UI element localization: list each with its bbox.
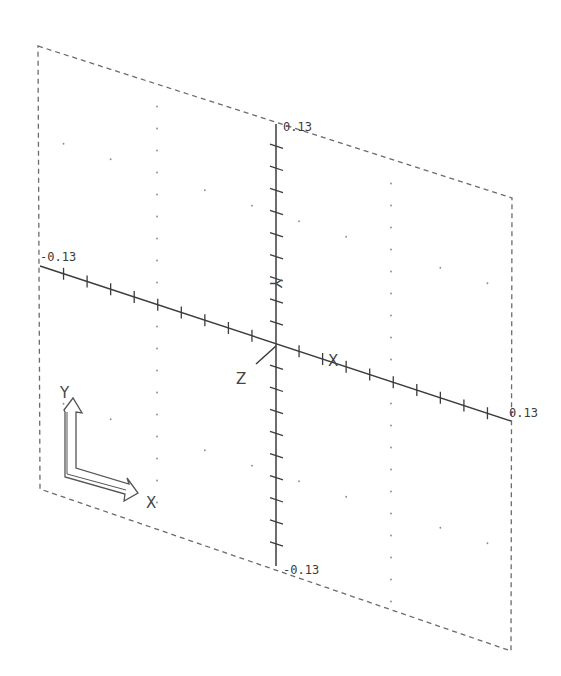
grid-dot bbox=[156, 106, 158, 108]
grid-dot bbox=[390, 535, 392, 537]
grid-dot bbox=[204, 449, 206, 451]
grid-dot bbox=[156, 128, 158, 130]
y-axis-min-label: -0.13 bbox=[283, 563, 319, 577]
grid-dot bbox=[156, 238, 158, 240]
grid-dot bbox=[390, 447, 392, 449]
grid-dot bbox=[204, 189, 206, 191]
grid-dot bbox=[390, 293, 392, 295]
x-axis-max-label: 0.13 bbox=[509, 406, 538, 420]
grid-dot bbox=[251, 465, 253, 467]
grid-dot bbox=[251, 205, 253, 207]
grid-dot bbox=[390, 425, 392, 427]
z-axis-line bbox=[256, 346, 276, 364]
grid-dot bbox=[156, 150, 158, 152]
grid-dot bbox=[156, 458, 158, 460]
grid-dot bbox=[345, 236, 347, 238]
grid-dot bbox=[63, 403, 65, 405]
grid-dot bbox=[156, 172, 158, 174]
grid-dot bbox=[390, 359, 392, 361]
grid-dot bbox=[390, 337, 392, 339]
ucs-icon: Y X bbox=[59, 384, 156, 512]
grid-dot bbox=[156, 216, 158, 218]
plane-boundary bbox=[38, 46, 512, 651]
grid-dot bbox=[156, 194, 158, 196]
y-axis-max-label: 0.13 bbox=[283, 120, 312, 134]
grid-dot bbox=[390, 491, 392, 493]
grid-dot bbox=[345, 496, 347, 498]
grid-dot bbox=[390, 579, 392, 581]
grid-dot bbox=[390, 557, 392, 559]
grid-dot bbox=[156, 282, 158, 284]
grid-dot bbox=[110, 418, 112, 420]
grid-dot bbox=[390, 513, 392, 515]
y-axis-label: Y bbox=[266, 278, 284, 289]
x-axis-min-label: -0.13 bbox=[40, 250, 76, 264]
grid-dot bbox=[298, 220, 300, 222]
grid-dot bbox=[439, 267, 441, 269]
grid-dot bbox=[156, 370, 158, 372]
grid-dot bbox=[390, 469, 392, 471]
ucs-y-label: Y bbox=[59, 384, 70, 402]
grid-dot bbox=[487, 542, 489, 544]
ucs-arrow-icon bbox=[64, 398, 138, 501]
grid-dot bbox=[110, 158, 112, 160]
grid-dot bbox=[156, 348, 158, 350]
grid-dot bbox=[156, 436, 158, 438]
grid-dot bbox=[487, 282, 489, 284]
grid-dot bbox=[156, 502, 158, 504]
grid-dot bbox=[390, 315, 392, 317]
grid-dot bbox=[156, 414, 158, 416]
z-axis-label: Z bbox=[236, 370, 246, 388]
grid-dot bbox=[390, 249, 392, 251]
grid-dot bbox=[390, 205, 392, 207]
drawing-canvas: 0.13 -0.13 -0.13 0.13 Z X Y Y X bbox=[0, 0, 561, 676]
grid-dot bbox=[390, 601, 392, 603]
grid-dot bbox=[298, 480, 300, 482]
grid-dot bbox=[390, 271, 392, 273]
ucs-x-label: X bbox=[146, 494, 156, 512]
x-axis-label: X bbox=[328, 352, 338, 370]
grid-dot bbox=[390, 183, 392, 185]
grid-dot bbox=[390, 227, 392, 229]
grid-dot bbox=[63, 143, 65, 145]
grid-dot bbox=[156, 260, 158, 262]
grid-dot bbox=[156, 326, 158, 328]
grid-dot bbox=[439, 527, 441, 529]
grid-dot bbox=[156, 392, 158, 394]
grid-dot bbox=[390, 403, 392, 405]
grid-dot bbox=[156, 480, 158, 482]
